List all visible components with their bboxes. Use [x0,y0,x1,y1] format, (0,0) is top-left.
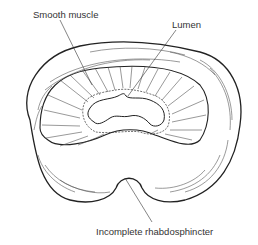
lumen-label: Lumen [172,19,201,30]
cross-section-illustration [0,0,258,245]
lumen-outline [88,94,164,126]
rhabdosphincter-label: Incomplete rhabdosphincter [96,226,213,237]
striated-muscle-fibers [34,48,232,193]
rhabdosphincter-leader [125,178,152,222]
urethra-cross-section-diagram: Smooth muscle Lumen Incomplete rhabdosph… [0,0,258,245]
lumen-leader [128,30,176,96]
smooth-muscle-leader [60,20,92,85]
smooth-muscle-label: Smooth muscle [33,9,98,20]
